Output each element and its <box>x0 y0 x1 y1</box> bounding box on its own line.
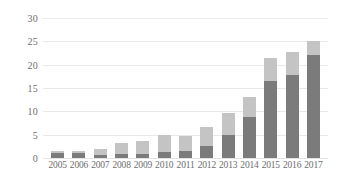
bar-column-2008 <box>111 18 132 158</box>
x-tick-label-2017: 2017 <box>303 160 324 170</box>
bar-column-2005 <box>47 18 68 158</box>
bar-segment-lower-segment-2011 <box>179 151 192 158</box>
bar-stack <box>286 52 299 158</box>
x-tick-label-2011: 2011 <box>175 160 196 170</box>
bar-segment-lower-segment-2007 <box>94 155 107 158</box>
y-axis: 302520151050 <box>0 18 38 158</box>
bar-segment-lower-segment-2013 <box>222 135 235 158</box>
bar-segment-lower-segment-2009 <box>136 154 149 158</box>
bar-stack <box>51 151 64 158</box>
x-tick-label-2009: 2009 <box>132 160 153 170</box>
bar-segment-lower-segment-2017 <box>307 55 320 158</box>
bar-segment-lower-segment-2006 <box>72 153 85 158</box>
bar-segment-upper-segment-2016 <box>286 52 299 75</box>
bar-column-2016 <box>281 18 302 158</box>
bar-stack <box>158 135 171 158</box>
bar-stack <box>136 141 149 158</box>
bar-column-2010 <box>154 18 175 158</box>
plot-area <box>43 18 328 158</box>
y-tick-label-5: 5 <box>33 129 38 140</box>
bar-stack <box>72 151 85 158</box>
bar-segment-lower-segment-2010 <box>158 152 171 158</box>
bar-stack <box>179 136 192 158</box>
bar-group <box>43 18 328 158</box>
y-tick-label-25: 25 <box>28 36 38 47</box>
bar-segment-upper-segment-2008 <box>115 143 128 154</box>
bar-stack <box>243 97 256 158</box>
bar-segment-lower-segment-2014 <box>243 117 256 158</box>
x-tick-label-2015: 2015 <box>260 160 281 170</box>
x-tick-label-2005: 2005 <box>47 160 68 170</box>
bar-column-2011 <box>175 18 196 158</box>
x-tick-label-2008: 2008 <box>111 160 132 170</box>
y-tick-label-0: 0 <box>33 153 38 164</box>
bar-stack <box>264 58 277 158</box>
bar-stack <box>94 149 107 158</box>
bar-segment-upper-segment-2015 <box>264 58 277 81</box>
x-tick-label-2013: 2013 <box>218 160 239 170</box>
bar-segment-upper-segment-2013 <box>222 113 235 135</box>
bar-segment-upper-segment-2011 <box>179 136 192 150</box>
bar-column-2007 <box>90 18 111 158</box>
x-tick-label-2016: 2016 <box>281 160 302 170</box>
x-axis: 2005200620072008200920102011201220132014… <box>43 160 328 170</box>
bar-segment-lower-segment-2005 <box>51 153 64 158</box>
bar-stack <box>307 41 320 158</box>
bar-segment-upper-segment-2014 <box>243 97 256 117</box>
x-tick-label-2006: 2006 <box>68 160 89 170</box>
bar-stack <box>200 127 213 158</box>
bar-segment-lower-segment-2015 <box>264 81 277 158</box>
bar-segment-upper-segment-2012 <box>200 127 213 146</box>
y-tick-label-30: 30 <box>28 13 38 24</box>
y-tick-label-10: 10 <box>28 106 38 117</box>
stacked-bar-chart: 302520151050 200520062007200820092010201… <box>0 0 340 189</box>
bar-column-2017 <box>303 18 324 158</box>
x-tick-label-2014: 2014 <box>239 160 260 170</box>
bar-column-2013 <box>218 18 239 158</box>
bar-column-2009 <box>132 18 153 158</box>
bar-column-2012 <box>196 18 217 158</box>
bar-segment-lower-segment-2008 <box>115 154 128 158</box>
gridline-0 <box>43 158 328 159</box>
bar-segment-upper-segment-2010 <box>158 135 171 152</box>
bar-segment-upper-segment-2017 <box>307 41 320 55</box>
x-tick-label-2012: 2012 <box>196 160 217 170</box>
bar-stack <box>115 143 128 158</box>
y-tick-label-20: 20 <box>28 59 38 70</box>
bar-stack <box>222 113 235 158</box>
bar-segment-lower-segment-2016 <box>286 75 299 158</box>
bar-column-2014 <box>239 18 260 158</box>
x-tick-label-2007: 2007 <box>90 160 111 170</box>
bar-column-2015 <box>260 18 281 158</box>
x-tick-label-2010: 2010 <box>154 160 175 170</box>
bar-segment-upper-segment-2009 <box>136 141 149 154</box>
y-tick-label-15: 15 <box>28 83 38 94</box>
bar-segment-lower-segment-2012 <box>200 146 213 158</box>
bar-column-2006 <box>68 18 89 158</box>
